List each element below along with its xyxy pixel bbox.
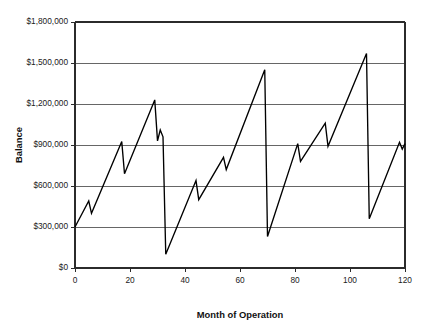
x-axis-tick-label: 120 <box>398 275 412 285</box>
axis-tickmarks <box>71 22 405 272</box>
data-series-lines <box>75 53 405 254</box>
y-axis-tick-labels: $0$300,000$600,000$900,000$1,200,000$1,5… <box>26 16 68 272</box>
y-axis-tick-label: $0 <box>59 262 69 272</box>
y-axis-tick-label: $1,500,000 <box>26 57 68 67</box>
gridlines <box>75 22 405 227</box>
x-axis-tick-label: 0 <box>73 275 78 285</box>
chart-canvas: $0$300,000$600,000$900,000$1,200,000$1,5… <box>0 0 424 329</box>
y-axis-tick-label: $900,000 <box>33 139 68 149</box>
y-axis-tick-label: $1,800,000 <box>26 16 68 26</box>
x-axis-tick-label: 60 <box>235 275 245 285</box>
x-axis-tick-label: 40 <box>180 275 190 285</box>
y-axis-tick-label: $1,200,000 <box>26 98 68 108</box>
x-axis-tick-label: 100 <box>343 275 357 285</box>
y-axis-title: Balance <box>13 127 24 163</box>
x-axis-tick-label: 80 <box>290 275 300 285</box>
x-axis-tick-label: 20 <box>125 275 135 285</box>
y-axis-tick-label: $600,000 <box>33 180 68 190</box>
x-axis-title: Month of Operation <box>197 309 284 320</box>
y-axis-tick-label: $300,000 <box>33 221 68 231</box>
x-axis-tick-labels: 020406080100120 <box>73 275 413 285</box>
balance-line-chart: $0$300,000$600,000$900,000$1,200,000$1,5… <box>0 0 424 329</box>
series-line-balance <box>75 53 405 254</box>
